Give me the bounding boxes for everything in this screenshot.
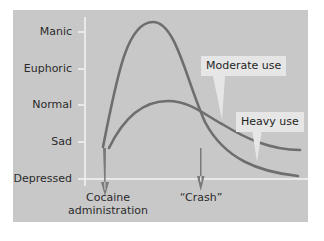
cocaine-administration-label: Cocaine administration bbox=[68, 191, 148, 217]
y-label-depressed: Depressed bbox=[14, 173, 72, 185]
crash-arrow bbox=[197, 148, 205, 191]
cocaine-arrow bbox=[101, 148, 109, 196]
heavy-callout-tail bbox=[252, 129, 262, 162]
y-label-normal: Normal bbox=[32, 99, 72, 111]
moderate-use-callout: Moderate use bbox=[201, 56, 286, 76]
y-label-euphoric: Euphoric bbox=[24, 63, 72, 75]
moderate-callout-tail bbox=[213, 76, 225, 120]
cocaine-label-line2: administration bbox=[68, 204, 148, 217]
y-label-manic: Manic bbox=[40, 26, 72, 38]
crash-label: “Crash” bbox=[176, 191, 226, 204]
heavy-use-callout: Heavy use bbox=[236, 112, 304, 132]
cocaine-label-line1: Cocaine bbox=[68, 191, 148, 204]
y-label-sad: Sad bbox=[51, 136, 72, 148]
